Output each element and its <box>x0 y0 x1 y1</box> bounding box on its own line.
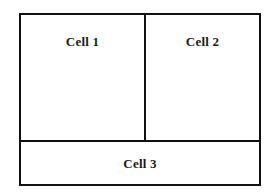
table-cell-1[interactable]: Cell 1 <box>21 15 144 140</box>
cell-2-label: Cell 2 <box>186 35 219 48</box>
diagram-canvas: Cell 1 Cell 2 Cell 3 <box>0 0 274 195</box>
cell-1-label: Cell 1 <box>66 35 99 48</box>
table-cell-3[interactable]: Cell 3 <box>21 142 259 184</box>
table-cell-2[interactable]: Cell 2 <box>146 15 259 140</box>
table-frame: Cell 1 Cell 2 Cell 3 <box>19 13 261 186</box>
cell-3-label: Cell 3 <box>123 157 156 170</box>
